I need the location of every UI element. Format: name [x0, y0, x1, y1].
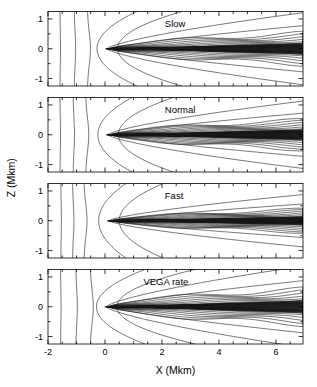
- panel-label-normal: Normal: [165, 104, 196, 115]
- x-tick-label: -2: [44, 347, 52, 357]
- y-tick-label: 0: [38, 302, 43, 312]
- x-tick-label: 6: [273, 347, 278, 357]
- panel-vega_rate: 10-1VEGA rate: [35, 266, 303, 347]
- y-tick-label: -1: [35, 246, 43, 256]
- x-tick-label: 0: [102, 347, 107, 357]
- y-tick-label: 1: [38, 186, 43, 196]
- y-tick-label: -1: [35, 74, 43, 84]
- x-axis-title: X (Mkm): [156, 364, 196, 376]
- y-tick-label: 1: [38, 100, 43, 110]
- contour-figure-canvas: 10-1Slow10-1Normal10-1Fast10-1VEGA rate-…: [0, 0, 317, 387]
- y-tick-label: 1: [38, 14, 43, 24]
- panel-label-vega_rate: VEGA rate: [143, 276, 188, 287]
- panel-slow: 10-1Slow: [35, 12, 303, 87]
- x-tick-label: 2: [159, 347, 164, 357]
- panel-normal: 10-1Normal: [35, 98, 303, 173]
- y-tick-label: -1: [35, 332, 43, 342]
- y-axis-title: Z (Mkm): [5, 158, 17, 197]
- panel-fast: 10-1Fast: [35, 184, 303, 259]
- y-tick-label: 0: [38, 44, 43, 54]
- x-tick-label: 4: [216, 347, 221, 357]
- panel-label-slow: Slow: [165, 18, 186, 29]
- panel-label-fast: Fast: [165, 190, 184, 201]
- y-tick-label: 1: [38, 272, 43, 282]
- y-tick-label: 0: [38, 130, 43, 140]
- y-tick-label: 0: [38, 216, 43, 226]
- figure-root: 10-1Slow10-1Normal10-1Fast10-1VEGA rate-…: [0, 0, 317, 387]
- y-tick-label: -1: [35, 160, 43, 170]
